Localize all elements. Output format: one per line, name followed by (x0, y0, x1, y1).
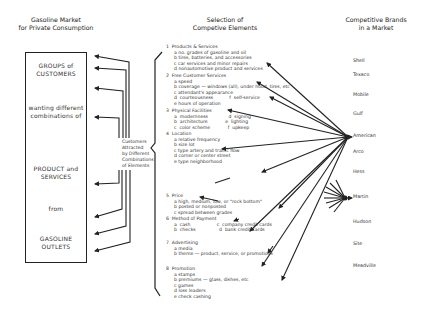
arrow-american-4c (262, 137, 348, 172)
arrow-to-customers (95, 68, 126, 138)
arrow-american-7b (262, 137, 348, 266)
arrow-american-1a (267, 63, 348, 137)
arrow-to-payment (234, 219, 239, 221)
arrow-american-2 (257, 82, 348, 137)
arrow-to-from (95, 170, 122, 217)
arrow-to-combinations (95, 117, 119, 138)
brace (151, 52, 162, 296)
arrow-to-gasoline (95, 170, 126, 234)
arrow-american-6 (250, 137, 348, 231)
arrow-american-3 (228, 110, 348, 137)
arrow-american-4 (222, 137, 348, 149)
arrow-to-services (95, 170, 119, 184)
martin-ray (329, 198, 345, 208)
martin-hub (343, 196, 348, 201)
arrow-to-7b (268, 246, 273, 253)
arrow-to-price (200, 197, 218, 201)
arrow-american-8b (282, 137, 348, 280)
arrow-american-2b (270, 97, 348, 137)
american-hub (345, 135, 350, 140)
connector-lines (0, 0, 422, 333)
arrow-to-outlets (95, 170, 130, 251)
arrow-4d-4e (215, 178, 230, 183)
